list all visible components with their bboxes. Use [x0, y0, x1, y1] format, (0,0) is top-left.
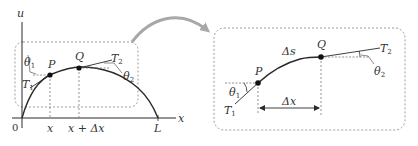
tick-l-label: L [153, 122, 161, 135]
right-panel: P Q Δs Δx T1 θ1 T2 θ2 [214, 28, 405, 130]
magnified-region-box [214, 28, 405, 130]
x-axis-label: x [178, 112, 185, 125]
left-panel: u x 0 P Q θ1 T1 T2 θ2 x x + Δx L [12, 7, 185, 135]
tick-x-dx-label: x + Δx [68, 122, 105, 135]
arc-length-label: Δs [281, 45, 296, 58]
t2-label: T2 [111, 52, 123, 66]
q-label: Q [75, 50, 84, 63]
string-tension-diagram: u x 0 P Q θ1 T1 T2 θ2 x x + Δx L [0, 0, 418, 146]
theta1-label: θ1 [24, 56, 35, 70]
t1-label-magnified: T1 [224, 104, 236, 118]
t1-label: T1 [22, 78, 34, 92]
tangent-t2-magnified [321, 48, 380, 57]
zoom-arrow [132, 18, 207, 42]
magnified-curve [258, 57, 321, 83]
theta2-label: θ2 [123, 70, 134, 84]
theta1-arc [244, 83, 247, 92]
theta1-label-magnified: θ1 [229, 86, 240, 100]
q-label-magnified: Q [317, 38, 326, 51]
u-axis-label: u [17, 7, 24, 20]
dx-label: Δx [281, 95, 297, 108]
theta2-arc [359, 51, 360, 57]
theta2-leader-magnified [361, 55, 374, 64]
point-p [47, 72, 52, 77]
point-q-magnified [318, 54, 324, 60]
origin-label: 0 [12, 122, 18, 133]
point-p-magnified [255, 80, 261, 86]
p-label: P [47, 58, 56, 71]
tick-x-label: x [47, 122, 54, 135]
p-label-magnified: P [254, 65, 263, 78]
t2-label-magnified: T2 [380, 42, 392, 56]
point-q [76, 65, 81, 70]
theta2-label-magnified: θ2 [374, 65, 385, 79]
